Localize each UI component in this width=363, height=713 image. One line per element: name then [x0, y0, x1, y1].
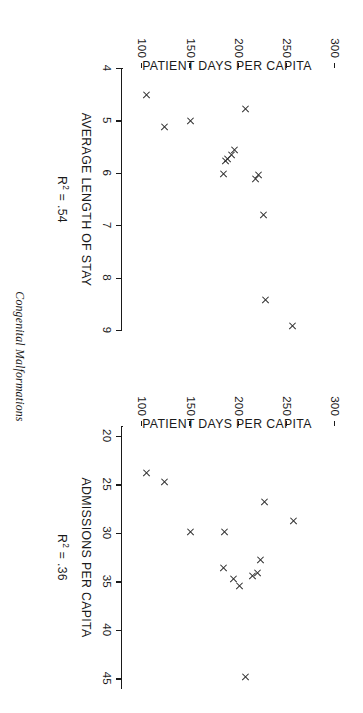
scatter-point-left	[186, 117, 195, 126]
x-tick-label-right: 30	[101, 526, 113, 539]
x-tick-right	[116, 436, 121, 437]
scatter-point-left	[288, 321, 297, 330]
scatter-point-right	[219, 563, 228, 572]
y-tick-label-right: 150	[185, 396, 197, 416]
x-axis-title-right: ADMISSIONS PER CAPITA	[79, 426, 93, 689]
scatter-point-right	[160, 478, 169, 487]
x-tick-right	[116, 533, 121, 534]
x-tick-label-left: 7	[101, 222, 113, 229]
x-tick-label-right: 35	[101, 575, 113, 588]
y-tick-label-left: 100	[136, 38, 148, 58]
x-tick-right	[116, 581, 121, 582]
scatter-point-right	[186, 527, 195, 536]
r-squared-annotation-left: R2 = .54	[55, 68, 69, 331]
y-axis-title-right: PATIENT DAYS PER CAPITA	[115, 417, 339, 431]
scatter-point-left	[251, 175, 260, 184]
y-axis-title-left: PATIENT DAYS PER CAPITA	[115, 59, 339, 73]
scatter-point-left	[259, 210, 268, 219]
x-tick-label-left: 5	[101, 117, 113, 124]
scatter-point-right	[142, 468, 151, 477]
scatter-point-right	[235, 582, 244, 591]
x-tick-label-right: 40	[101, 623, 113, 636]
r-squared-value-right: = .36	[55, 548, 69, 581]
scatter-point-right	[256, 555, 265, 564]
chart-panel-admissions-per-capita: 202530354045100150200250300 ADMISSIONS P…	[43, 368, 363, 708]
plot-area-left	[123, 68, 345, 330]
x-axis-line-right	[121, 426, 122, 689]
x-tick-left	[116, 120, 121, 121]
figure: 456789100150200250300 AVERAGE LENGTH OF …	[0, 0, 363, 713]
x-axis-line-left	[121, 68, 122, 331]
scatter-point-right	[289, 517, 298, 526]
plot-area-right	[123, 426, 345, 688]
rotated-figure-wrapper: 456789100150200250300 AVERAGE LENGTH OF …	[0, 0, 363, 713]
x-tick-label-left: 9	[101, 327, 113, 334]
x-axis-title-left: AVERAGE LENGTH OF STAY	[79, 68, 93, 331]
scatter-point-left	[219, 170, 228, 179]
y-tick-label-right: 250	[281, 396, 293, 416]
x-tick-right	[116, 484, 121, 485]
scatter-point-left	[221, 157, 230, 166]
y-tick-label-left: 200	[233, 38, 245, 58]
scatter-point-right	[241, 673, 250, 682]
x-tick-left	[116, 278, 121, 279]
x-tick-left	[116, 225, 121, 226]
x-tick-label-left: 4	[101, 65, 113, 72]
x-tick-right	[116, 678, 121, 679]
scatter-point-right	[253, 569, 262, 578]
x-tick-label-right: 45	[101, 672, 113, 685]
scatter-point-left	[142, 91, 151, 100]
y-tick-label-right: 200	[233, 396, 245, 416]
x-tick-label-right: 20	[101, 429, 113, 442]
scatter-point-right	[260, 497, 269, 506]
r-squared-symbol-left: R	[55, 176, 69, 185]
scatter-point-left	[261, 295, 270, 304]
x-tick-label-left: 8	[101, 274, 113, 281]
figure-caption: Congenital Malformations	[12, 0, 27, 713]
y-tick-label-left: 250	[281, 38, 293, 58]
scatter-point-left	[160, 123, 169, 132]
y-tick-label-left: 300	[329, 38, 341, 58]
r-squared-value-left: = .54	[55, 190, 69, 223]
x-tick-label-left: 6	[101, 169, 113, 176]
x-tick-label-right: 25	[101, 478, 113, 491]
scatter-point-left	[241, 104, 250, 113]
x-tick-left	[116, 173, 121, 174]
r-squared-symbol-right: R	[55, 534, 69, 543]
y-tick-label-right: 300	[329, 396, 341, 416]
y-tick-label-right: 100	[136, 396, 148, 416]
r-squared-annotation-right: R2 = .36	[55, 426, 69, 689]
x-tick-left	[116, 330, 121, 331]
chart-panel-average-length-of-stay: 456789100150200250300 AVERAGE LENGTH OF …	[43, 10, 363, 350]
scatter-point-right	[220, 527, 229, 536]
y-tick-label-left: 150	[185, 38, 197, 58]
x-tick-right	[116, 630, 121, 631]
